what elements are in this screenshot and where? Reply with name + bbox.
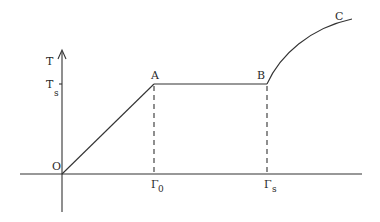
gammas-label: Γ (264, 178, 272, 191)
gamma0-subscript: 0 (158, 184, 164, 194)
ts-subscript: s (54, 88, 59, 98)
segment-b-c (267, 19, 352, 84)
y-axis-label: T (46, 55, 54, 68)
origin-label: O (52, 160, 61, 173)
gammas-subscript: s (272, 184, 277, 194)
point-c-label: C (335, 10, 343, 23)
point-a-label: A (150, 69, 160, 82)
segment-o-a (62, 84, 154, 174)
point-b-label: B (257, 69, 265, 82)
diagram-canvas: T T s O A B C Γ 0 Γ s (0, 0, 380, 222)
ts-label: T (46, 78, 54, 91)
